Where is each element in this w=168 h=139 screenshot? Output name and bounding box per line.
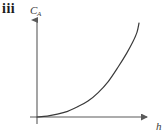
- figure-panel: iii C A h: [0, 0, 168, 139]
- x-axis-label: h: [156, 120, 162, 132]
- plot-area: C A h: [0, 0, 168, 139]
- data-curve: [37, 23, 139, 117]
- y-axis-label-subscript: A: [36, 10, 42, 18]
